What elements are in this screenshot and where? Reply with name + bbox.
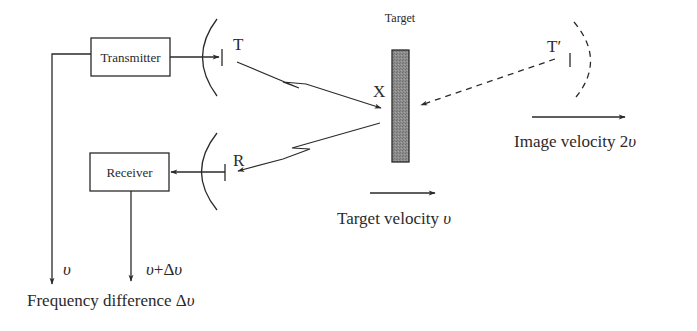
target-label: Target <box>385 11 416 25</box>
reflection-point-label: X <box>373 82 385 101</box>
image-velocity: Image velocity 2υ <box>514 117 636 151</box>
receiver-label: Receiver <box>106 165 153 180</box>
virtual-ray <box>421 59 555 105</box>
received-frequency-label: υ+Δυ <box>146 260 182 279</box>
transmit-antenna-label: T <box>233 35 244 54</box>
target-velocity-label: Target velocity υ <box>337 209 451 228</box>
receiver-block: Receiver <box>90 153 169 191</box>
target: Target <box>385 11 416 162</box>
receive-antenna-label: R <box>233 151 245 170</box>
target-plate <box>392 50 409 162</box>
incident-ray <box>237 62 381 108</box>
reflected-ray <box>238 123 380 171</box>
doppler-radar-diagram: Transmitter T X Target R Receiver <box>0 0 697 331</box>
reference-frequency-label: υ <box>63 260 71 279</box>
frequency-difference-label: Frequency difference Δυ <box>27 291 195 310</box>
target-velocity: Target velocity υ <box>337 193 451 228</box>
transmitter-block: Transmitter <box>91 38 170 76</box>
transmitter-label: Transmitter <box>100 50 161 65</box>
reference-signal-line <box>52 54 91 284</box>
image-antenna-label: T′ <box>547 37 561 56</box>
image-velocity-label: Image velocity 2υ <box>514 132 636 151</box>
image-dish-icon <box>574 22 591 97</box>
